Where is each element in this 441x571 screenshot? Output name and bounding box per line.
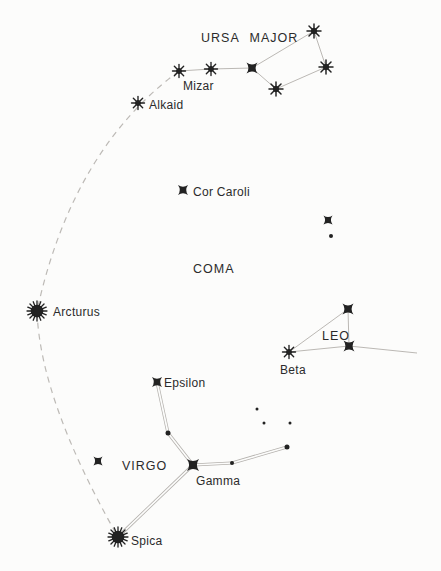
star-alioth [205, 63, 218, 76]
constellation-line-beta-leo-mid [289, 346, 349, 352]
star-faint-1 [256, 408, 259, 411]
star-arcturus [27, 301, 47, 321]
constellation-line-core-node-gamma [168, 433, 193, 465]
star-label-mizar: Mizar [183, 79, 214, 93]
star-mizar [173, 65, 186, 78]
constellation-label-leo: LEO [322, 329, 350, 343]
star-alkaid [132, 97, 145, 110]
star-phecda [269, 82, 283, 96]
star-label-epsilon: Epsilon [164, 376, 205, 390]
constellation-line-merak-phecda [276, 67, 326, 89]
star-faint-3 [289, 422, 292, 425]
star-spica [108, 527, 128, 547]
star-label-cor-caroli: Cor Caroli [193, 185, 250, 199]
labels-layer: URSA MAJORCOMALEOVIRGOMizarAlkaidCor Car… [53, 31, 350, 548]
star-merak [319, 60, 333, 74]
constellation-line-dubhe-merak [314, 31, 326, 67]
star-cor-caroli [178, 185, 188, 195]
constellation-label-coma: COMA [193, 262, 235, 276]
star-label-arcturus: Arcturus [53, 305, 100, 319]
star-beta [283, 346, 296, 359]
stars-layer [27, 24, 354, 547]
star-coma-star [324, 216, 333, 225]
star-virgo-dot2 [230, 461, 234, 465]
star-label-gamma: Gamma [196, 474, 240, 488]
constellation-label-virgo: VIRGO [122, 459, 167, 473]
star-label-spica: Spica [131, 534, 163, 548]
star-dubhe [307, 24, 321, 38]
constellation-line-leo-mid-east [349, 346, 417, 353]
star-coma-dot [329, 234, 333, 238]
star-label-alkaid: Alkaid [149, 98, 183, 112]
constellation-line-core-gamma-spica [118, 465, 193, 537]
star-chart-canvas: URSA MAJORCOMALEOVIRGOMizarAlkaidCor Car… [0, 0, 441, 571]
star-faint-2 [263, 422, 266, 425]
star-virgo-node [166, 431, 171, 436]
star-chart-figure: URSA MAJORCOMALEOVIRGOMizarAlkaidCor Car… [0, 0, 441, 571]
star-label-beta: Beta [280, 363, 306, 377]
star-virgo-east [285, 445, 290, 450]
constellation-line-core-dot2-east [232, 447, 287, 463]
constellation-label-ursa-major: URSA MAJOR [201, 31, 298, 45]
star-virgo-west [94, 457, 103, 466]
